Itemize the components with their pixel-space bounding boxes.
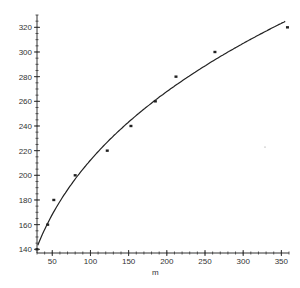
x-tick-label: 250: [198, 257, 212, 266]
x-axis-label: m: [152, 268, 159, 277]
y-tick-label: 200: [19, 171, 33, 180]
x-tick-label: 100: [84, 257, 98, 266]
data-point: [129, 125, 132, 127]
data-point: [286, 26, 289, 28]
y-tick-label: 320: [19, 23, 33, 32]
x-tick-label: 350: [275, 257, 289, 266]
stray-mark: [264, 146, 265, 147]
x-tick-label: 200: [160, 257, 174, 266]
data-point: [52, 199, 55, 201]
data-point: [46, 223, 49, 225]
x-tick-label: 50: [48, 257, 57, 266]
y-tick-label: 280: [19, 73, 33, 82]
y-tick-label: 260: [19, 97, 33, 106]
data-point: [154, 100, 157, 102]
y-tick-label: 160: [19, 221, 33, 230]
y-tick-label: 220: [19, 147, 33, 156]
data-point: [174, 75, 177, 77]
y-tick-label: 240: [19, 122, 33, 131]
data-point: [74, 174, 77, 176]
data-point: [106, 149, 109, 151]
x-tick-label: 300: [237, 257, 251, 266]
fitted-curve: [38, 21, 285, 245]
y-tick-label: 300: [19, 48, 33, 57]
data-point: [213, 51, 216, 53]
scatter-chart: 1401601802002202402602803003205010015020…: [0, 0, 300, 288]
x-tick-label: 150: [122, 257, 136, 266]
y-tick-label: 140: [19, 245, 33, 254]
y-tick-label: 180: [19, 196, 33, 205]
data-point: [36, 248, 39, 250]
